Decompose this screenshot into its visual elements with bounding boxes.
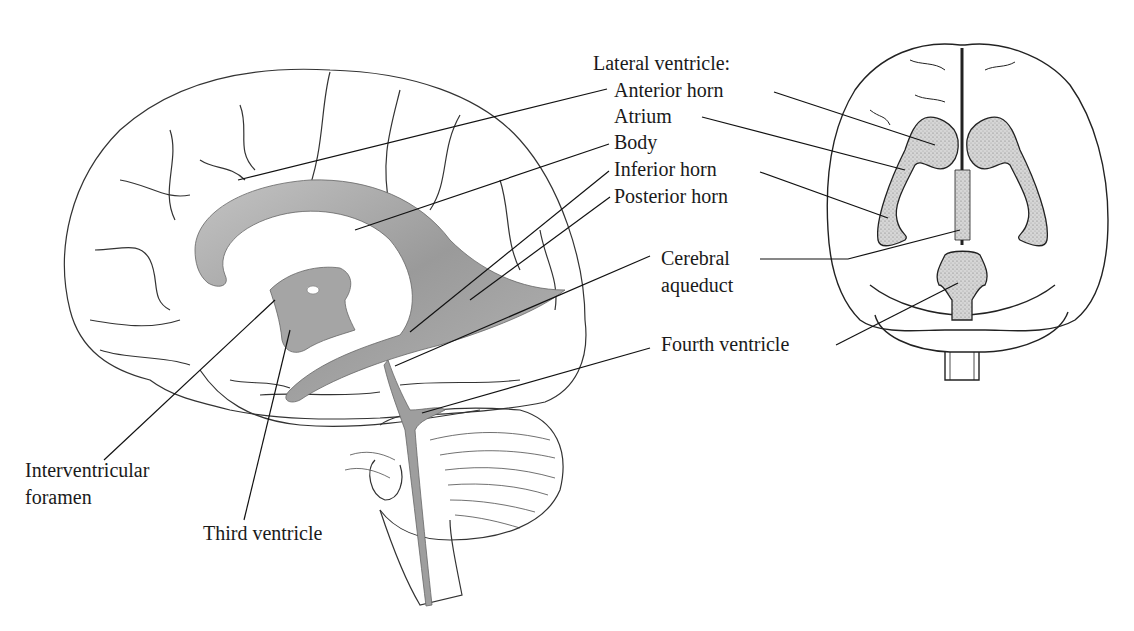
label-posterior-horn: Posterior horn	[614, 185, 728, 208]
label-fourth-ventricle: Fourth ventricle	[661, 333, 789, 356]
label-interventricular-foramen-line1: Interventricular	[25, 459, 149, 482]
label-inferior-horn: Inferior horn	[614, 158, 717, 181]
leader-third-ventricle	[244, 330, 290, 520]
ventricle-anatomy-illustration	[0, 0, 1134, 631]
leader-anterior-horn-left	[238, 89, 607, 180]
leader-posterior-horn	[470, 197, 610, 300]
leader-anterior-horn-right	[774, 92, 935, 145]
label-interventricular-foramen-line2: foramen	[25, 486, 92, 509]
leader-cerebral-aqueduct-right	[760, 230, 960, 259]
label-cerebral-aqueduct-line1: Cerebral	[661, 247, 730, 270]
leader-inferior-horn	[760, 172, 888, 218]
leader-interventricular-foramen	[104, 300, 275, 460]
label-anterior-horn: Anterior horn	[614, 79, 723, 102]
label-cerebral-aqueduct-line2: aqueduct	[661, 274, 733, 297]
label-third-ventricle: Third ventricle	[203, 522, 322, 545]
label-body: Body	[614, 131, 657, 154]
label-atrium: Atrium	[614, 105, 672, 128]
label-lateral-ventricle-heading: Lateral ventricle:	[593, 52, 730, 75]
leader-body	[355, 144, 609, 230]
